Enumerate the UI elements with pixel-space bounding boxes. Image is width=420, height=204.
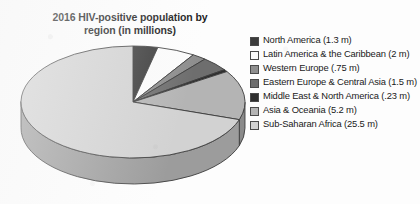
chart-title: 2016 HIV-positive population by region (… [24,11,236,37]
legend-item-label: Western Europe (.75 m) [263,62,360,73]
legend-swatch [250,79,259,88]
pie-graphic [14,38,250,188]
legend-item-label: Asia & Oceania (5.2 m) [263,104,357,115]
pie-top-slices [21,46,245,158]
legend-swatch [250,93,259,102]
legend-swatch [250,51,259,60]
pie-chart-figure: 2016 HIV-positive population by region (… [0,0,420,204]
legend-item[interactable]: Western Europe (.75 m) [250,62,420,74]
legend-item[interactable]: Eastern Europe & Central Asia (1.5 m) [250,76,420,88]
legend-item[interactable]: Sub-Saharan Africa (25.5 m) [250,118,420,130]
legend-item[interactable]: Latin America & the Caribbean (2 m) [250,48,420,60]
legend-item[interactable]: North America (1.3 m) [250,34,420,46]
legend-item-label: Eastern Europe & Central Asia (1.5 m) [263,76,417,87]
legend-swatch [250,121,259,130]
legend-item-label: Sub-Saharan Africa (25.5 m) [263,118,378,129]
legend-item[interactable]: Asia & Oceania (5.2 m) [250,104,420,116]
legend-item-label: Middle East & North America (.23 m) [263,90,410,101]
legend-item[interactable]: Middle East & North America (.23 m) [250,90,420,102]
legend-swatch [250,65,259,74]
legend-item-label: Latin America & the Caribbean (2 m) [263,48,409,59]
legend-item-label: North America (1.3 m) [263,34,352,45]
legend-swatch [250,37,259,46]
chart-legend: North America (1.3 m)Latin America & the… [250,34,420,132]
legend-swatch [250,107,259,116]
